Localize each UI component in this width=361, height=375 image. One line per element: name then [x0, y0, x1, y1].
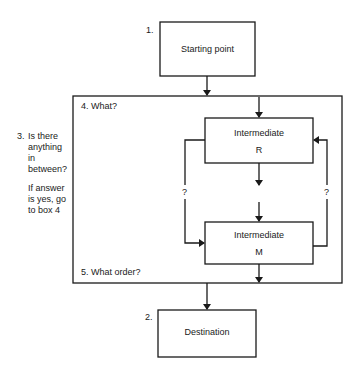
outer-top-label: 4. What? — [81, 101, 117, 112]
side-note-line: If answer — [28, 183, 66, 194]
side-note-number: 3. — [17, 131, 25, 142]
side-note-line: between? — [28, 164, 67, 175]
right-loop-question: ? — [324, 187, 329, 198]
right-loop-arrow — [314, 140, 327, 185]
start-label: Starting point — [160, 44, 255, 55]
destination-number: 2. — [145, 312, 153, 323]
side-note-line: Is there — [28, 131, 67, 142]
destination-label: Destination — [158, 327, 256, 338]
intermediate-m-letter: M — [205, 247, 313, 258]
left-loop-question: ? — [182, 187, 187, 198]
side-note-question: Is there anything in between? — [28, 131, 67, 175]
start-number: 1. — [146, 25, 154, 36]
outer-bottom-label: 5. What order? — [81, 267, 141, 278]
intermediate-r-letter: R — [205, 145, 313, 156]
side-note-line: is yes, go — [28, 194, 66, 205]
side-note-line: to box 4 — [28, 205, 66, 216]
left-loop-arrow — [185, 199, 204, 243]
intermediate-r-box — [205, 118, 313, 163]
side-note-line: anything — [28, 142, 67, 153]
side-note-instruction: If answer is yes, go to box 4 — [28, 183, 66, 216]
left-loop-line — [185, 140, 205, 185]
side-note-line: in — [28, 153, 67, 164]
right-loop-line — [313, 199, 327, 246]
intermediate-m-label: Intermediate — [205, 230, 313, 241]
intermediate-r-label: Intermediate — [205, 128, 313, 139]
